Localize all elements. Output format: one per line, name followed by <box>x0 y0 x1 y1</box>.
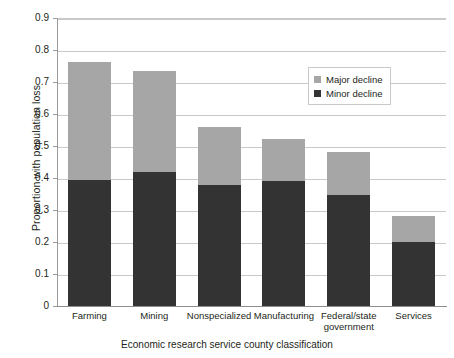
x-tick-label: Manufacturing <box>252 310 317 321</box>
bar-segment-minor-decline <box>133 172 176 306</box>
bar-segment-major-decline <box>68 62 111 180</box>
bar-mining <box>133 71 176 306</box>
y-tick-label: 0.5 <box>0 140 49 151</box>
x-tick-label: Farming <box>57 310 122 321</box>
y-tick-label: 0 <box>0 300 49 311</box>
bar-federal-state-government <box>327 152 370 306</box>
bar-segment-major-decline <box>198 127 241 185</box>
y-tick-label: 0.1 <box>0 268 49 279</box>
legend-item-major-decline: Major decline <box>314 72 383 86</box>
bars-layer <box>57 18 446 306</box>
y-tick-label: 0.8 <box>0 44 49 55</box>
x-tick-label: Federal/stategovernment <box>316 310 381 332</box>
x-tick-label: Mining <box>122 310 187 321</box>
bar-segment-minor-decline <box>68 180 111 306</box>
bar-segment-major-decline <box>262 139 305 181</box>
bar-segment-minor-decline <box>327 195 370 306</box>
y-tick-label: 0.9 <box>0 12 49 23</box>
y-tick-label: 0.2 <box>0 236 49 247</box>
bar-farming <box>68 62 111 306</box>
y-tick-label: 0.3 <box>0 204 49 215</box>
bar-segment-minor-decline <box>198 185 241 306</box>
bar-segment-minor-decline <box>262 181 305 306</box>
x-tick-label: Services <box>381 310 446 321</box>
bar-segment-major-decline <box>327 152 370 195</box>
y-tick-label: 0.6 <box>0 108 49 119</box>
x-axis-line <box>57 306 447 307</box>
y-tick-label: 0.4 <box>0 172 49 183</box>
legend-label-minor-decline: Minor decline <box>326 88 383 99</box>
bar-segment-major-decline <box>133 71 176 172</box>
bar-nonspecialized <box>198 127 241 306</box>
bar-chart: Proportion with population loss 00.10.20… <box>0 0 454 358</box>
bar-services <box>392 216 435 306</box>
x-axis-title: Economic research service county classif… <box>0 339 454 350</box>
legend-item-minor-decline: Minor decline <box>314 86 383 100</box>
x-tick-label: Nonspecialized <box>187 310 252 321</box>
chart-legend: Major decline Minor decline <box>308 67 391 105</box>
y-tick-label: 0.7 <box>0 76 49 87</box>
legend-swatch-major-decline <box>314 76 321 83</box>
legend-swatch-minor-decline <box>314 90 321 97</box>
bar-segment-minor-decline <box>392 242 435 306</box>
bar-manufacturing <box>262 139 305 306</box>
bar-segment-major-decline <box>392 216 435 241</box>
legend-label-major-decline: Major decline <box>326 74 383 85</box>
